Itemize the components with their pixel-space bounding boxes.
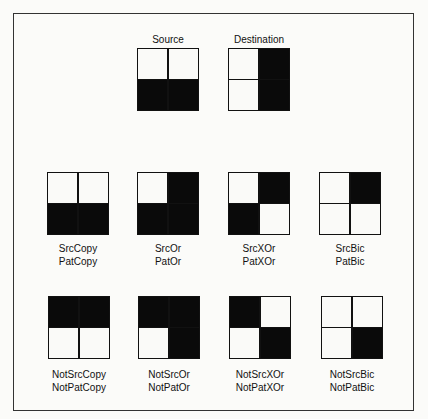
notsrcxor-label: NotSrcXOr NotPatXOr [215,368,305,394]
bottom-right-cell [169,80,198,110]
top-left-cell [48,173,77,203]
label-line2: PatCopy [33,255,123,268]
notsrccopy-result [48,296,110,359]
notsrccopy-label: NotSrcCopy NotPatCopy [34,368,124,394]
notsrcxor-result [229,296,291,359]
bottom-left-cell [139,328,168,358]
bottom-left-cell [49,328,78,358]
top-left-cell [229,173,258,203]
top-left-cell [229,49,258,79]
label-line2: NotPatBic [307,381,397,394]
bottom-left-cell [229,80,258,110]
bottom-right-cell [170,328,199,358]
srcor-result [137,172,199,235]
label-line1: SrcCopy [33,242,123,255]
bottom-right-cell [169,204,198,234]
bottom-right-cell [260,204,289,234]
top-left-cell [230,297,259,327]
srcbic-result [319,172,381,235]
srcor-label: SrcOr PatOr [123,242,213,268]
label-line2: NotPatCopy [34,381,124,394]
top-right-cell [260,173,289,203]
source-title: Source [128,34,208,45]
top-right-cell [80,297,109,327]
srcxor-label: SrcXOr PatXOr [214,242,304,268]
top-right-cell [79,173,108,203]
label-line2: NotPatXOr [215,381,305,394]
srcbic-label: SrcBic PatBic [305,242,395,268]
notsrcor-label: NotSrcOr NotPatOr [124,368,214,394]
label-line1: SrcBic [305,242,395,255]
top-right-cell [169,49,198,79]
bottom-right-cell [351,204,380,234]
top-left-cell [322,297,351,327]
top-left-cell [49,297,78,327]
destination-pattern [228,48,290,111]
srccopy-result [47,172,109,235]
destination-title: Destination [219,34,299,45]
bottom-right-cell [353,328,382,358]
top-left-cell [139,297,168,327]
top-right-cell [351,173,380,203]
top-left-cell [138,173,167,203]
label-line1: SrcXOr [214,242,304,255]
label-line2: PatXOr [214,255,304,268]
top-right-cell [353,297,382,327]
bottom-right-cell [261,328,290,358]
bottom-left-cell [230,328,259,358]
srccopy-label: SrcCopy PatCopy [33,242,123,268]
top-right-cell [260,49,289,79]
top-right-cell [169,173,198,203]
bottom-left-cell [48,204,77,234]
top-right-cell [261,297,290,327]
notsrcbic-label: NotSrcBic NotPatBic [307,368,397,394]
top-right-cell [170,297,199,327]
bottom-left-cell [138,204,167,234]
label-line1: NotSrcBic [307,368,397,381]
label-line1: NotSrcXOr [215,368,305,381]
bottom-left-cell [138,80,167,110]
bottom-left-cell [320,204,349,234]
bottom-right-cell [260,80,289,110]
notsrcor-result [138,296,200,359]
top-left-cell [138,49,167,79]
bottom-left-cell [229,204,258,234]
label-line1: NotSrcOr [124,368,214,381]
bottom-left-cell [322,328,351,358]
srcxor-result [228,172,290,235]
label-line1: SrcOr [123,242,213,255]
bottom-right-cell [80,328,109,358]
notsrcbic-result [321,296,383,359]
source-pattern [137,48,199,111]
label-line1: NotSrcCopy [34,368,124,381]
label-line2: PatOr [123,255,213,268]
top-left-cell [320,173,349,203]
label-line2: PatBic [305,255,395,268]
bottom-right-cell [79,204,108,234]
label-line2: NotPatOr [124,381,214,394]
